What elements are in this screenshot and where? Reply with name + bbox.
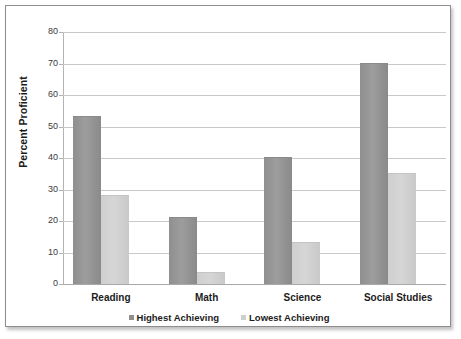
plot-area xyxy=(63,32,446,284)
bar-science-highest-achieving[interactable] xyxy=(264,157,292,284)
bar-social-studies-highest-achieving[interactable] xyxy=(360,63,388,285)
legend-swatch-icon xyxy=(129,315,134,320)
y-tick-mark-40 xyxy=(59,158,63,159)
chart-frame: Percent Proficient 80706050403020100 Rea… xyxy=(5,5,451,327)
y-tick-mark-60 xyxy=(59,95,63,96)
bar-math-lowest-achieving[interactable] xyxy=(197,272,225,284)
y-tick-mark-0 xyxy=(59,284,63,285)
y-tick-mark-30 xyxy=(59,190,63,191)
y-tick-label-30: 30 xyxy=(18,185,58,194)
y-tick-label-70: 70 xyxy=(18,59,58,68)
legend-label: Lowest Achieving xyxy=(249,312,329,323)
gridline-0 xyxy=(63,284,446,285)
category-label-reading: Reading xyxy=(63,292,159,303)
legend-swatch-icon xyxy=(241,315,246,320)
category-axis-labels: ReadingMathScienceSocial Studies xyxy=(63,292,446,308)
y-tick-mark-80 xyxy=(59,32,63,33)
bar-reading-highest-achieving[interactable] xyxy=(73,116,101,284)
category-label-science: Science xyxy=(255,292,351,303)
bar-group-reading xyxy=(73,32,129,284)
bar-social-studies-lowest-achieving[interactable] xyxy=(388,173,416,284)
y-tick-label-0: 0 xyxy=(18,279,58,288)
y-tick-label-50: 50 xyxy=(18,122,58,131)
bar-science-lowest-achieving[interactable] xyxy=(292,242,320,284)
y-tick-label-80: 80 xyxy=(18,27,58,36)
bar-group-social-studies xyxy=(360,32,416,284)
y-tick-mark-50 xyxy=(59,127,63,128)
y-tick-mark-70 xyxy=(59,64,63,65)
y-tick-mark-10 xyxy=(59,253,63,254)
y-tick-mark-20 xyxy=(59,221,63,222)
y-tick-label-10: 10 xyxy=(18,248,58,257)
bar-math-highest-achieving[interactable] xyxy=(169,217,197,284)
y-axis-tick-labels: 80706050403020100 xyxy=(10,32,58,284)
bar-reading-lowest-achieving[interactable] xyxy=(101,195,129,284)
y-tick-label-60: 60 xyxy=(18,90,58,99)
legend-entry-lowest-achieving[interactable]: Lowest Achieving xyxy=(241,312,329,323)
bar-group-math xyxy=(169,32,225,284)
y-tick-label-20: 20 xyxy=(18,216,58,225)
chart-legend: Highest AchievingLowest Achieving xyxy=(6,312,452,323)
legend-entry-highest-achieving[interactable]: Highest Achieving xyxy=(129,312,220,323)
y-tick-label-40: 40 xyxy=(18,153,58,162)
category-label-math: Math xyxy=(159,292,255,303)
legend-label: Highest Achieving xyxy=(137,312,220,323)
category-label-social-studies: Social Studies xyxy=(350,292,446,303)
bar-group-science xyxy=(264,32,320,284)
